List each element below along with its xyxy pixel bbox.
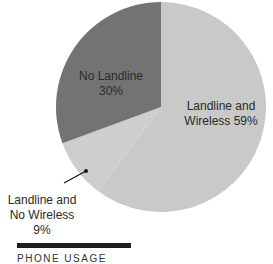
- label-landline-and-no-wireless: Landline and No Wireless 9%: [4, 193, 80, 238]
- leader-dot: [84, 169, 88, 173]
- section-caption: PHONE USAGE: [17, 253, 107, 264]
- label-value: 9%: [4, 223, 80, 238]
- label-text: Landline and: [4, 193, 80, 208]
- label-text: Landline and: [176, 99, 266, 114]
- label-landline-and-wireless: Landline and Wireless 59%: [176, 99, 266, 129]
- label-text: No Landline: [78, 69, 144, 84]
- label-no-landline: No Landline 30%: [78, 69, 144, 99]
- label-value: Wireless 59%: [176, 114, 266, 129]
- label-value: 30%: [78, 84, 144, 99]
- label-text: No Wireless: [4, 208, 80, 223]
- section-divider-bar: [17, 243, 131, 248]
- leader-line: [64, 171, 86, 183]
